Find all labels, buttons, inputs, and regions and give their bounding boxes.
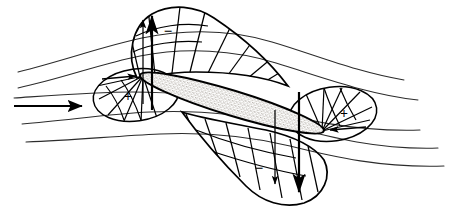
upper-suction-sign: − — [164, 23, 173, 39]
leading-edge-lobe-outline — [90, 63, 182, 126]
streamline-5 — [26, 134, 444, 167]
airfoil-pressure-diagram: − − + + — [0, 0, 459, 215]
leading-edge-pressure-sign: + — [124, 89, 132, 104]
trailing-edge-pressure-sign: + — [340, 106, 348, 121]
lower-suction-sign: − — [255, 160, 264, 176]
force-arrow-group — [14, 16, 366, 192]
figure-canvas: − − + + — [0, 0, 459, 215]
leading-edge-pressure-lobe — [90, 63, 182, 126]
